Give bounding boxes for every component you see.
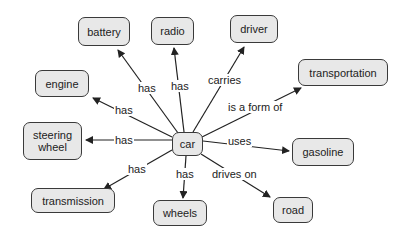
node-gasoline[interactable]: gasoline bbox=[292, 138, 354, 166]
node-wheels[interactable]: wheels bbox=[153, 200, 207, 226]
node-transportation[interactable]: transportation bbox=[298, 59, 388, 86]
node-road[interactable]: road bbox=[273, 197, 313, 223]
node-radio[interactable]: radio bbox=[151, 17, 194, 45]
edge-label-engine: has bbox=[114, 104, 134, 116]
node-steering-wheel[interactable]: steering wheel bbox=[23, 122, 82, 160]
node-car[interactable]: car bbox=[172, 132, 203, 156]
edge-label-wheels: has bbox=[175, 168, 195, 180]
node-battery[interactable]: battery bbox=[78, 17, 130, 46]
edge-driver bbox=[193, 47, 244, 132]
edge-label-battery: has bbox=[137, 82, 157, 94]
edge-label-steering-wheel: has bbox=[114, 134, 134, 146]
node-driver[interactable]: driver bbox=[230, 15, 278, 43]
edge-label-road: drives on bbox=[211, 168, 258, 180]
edge-label-driver: carries bbox=[207, 74, 242, 86]
edge-label-transportation: is a form of bbox=[227, 101, 283, 113]
edge-label-gasoline: uses bbox=[227, 135, 252, 147]
edge-label-transmission: has bbox=[127, 163, 147, 175]
edge-label-radio: has bbox=[170, 80, 190, 92]
node-transmission[interactable]: transmission bbox=[31, 188, 115, 213]
node-engine[interactable]: engine bbox=[35, 70, 89, 97]
